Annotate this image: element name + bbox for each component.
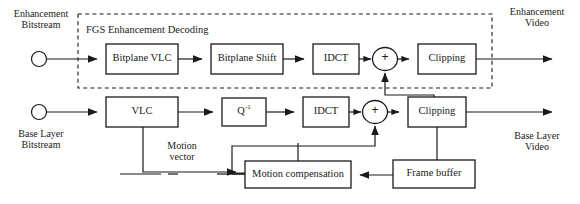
block-label-idct-base: IDCT [303,105,349,117]
adder-enhancement-symbol: + [377,51,393,64]
block-label-frame-buffer: Frame buffer [393,167,475,179]
enhancement-bitstream-label: Enhancement Bitstream [2,8,80,30]
block-label-vlc: VLC [106,105,178,117]
block-label-clipping-base: Clipping [408,105,466,117]
fgs-enhancement-group-label: FGS Enhancement Decoding [86,24,236,36]
enhancement-input-terminal [32,52,47,67]
base-layer-input-terminal [32,105,47,120]
fgs-decoder-diagram: FGS Enhancement Decoding Enhancement Bit… [0,0,580,204]
motion-vector-label: Motion vector [152,140,212,162]
block-label-inverse-quantizer: Q-1 [222,104,266,116]
iq-base-text: Q [237,105,245,116]
iq-superscript: -1 [245,103,251,111]
block-label-idct-enhancement: IDCT [313,52,359,64]
block-label-clipping-enhancement: Clipping [418,52,476,64]
block-label-bitplane-shift: Bitplane Shift [211,52,283,64]
base-layer-video-label: Base Layer Video [496,130,578,152]
block-label-motion-compensation: Motion compensation [245,168,351,180]
base-layer-bitstream-label: Base Layer Bitstream [2,128,80,150]
adder-base-symbol: + [367,104,383,117]
enhancement-video-label: Enhancement Video [496,6,578,28]
wire-prediction-to-adder-base [300,126,375,146]
block-label-bitplane-vlc: Bitplane VLC [106,52,178,64]
